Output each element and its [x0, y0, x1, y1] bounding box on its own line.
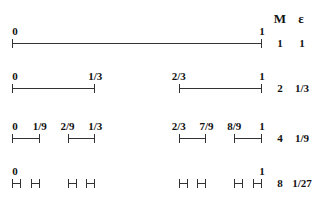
interval-segment — [68, 183, 77, 184]
interval-segment — [31, 183, 40, 184]
interval-segment — [86, 183, 95, 184]
endpoint-label: 1 — [259, 166, 265, 177]
cantor-set-diagram: M ε 011101/32/3121/301/92/91/32/37/98/91… — [0, 0, 320, 203]
m-value: 1 — [277, 38, 283, 49]
interval-segment — [12, 183, 21, 184]
interval-segment — [234, 183, 243, 184]
interval-segment — [12, 138, 40, 139]
endpoint-label: 2/9 — [61, 121, 75, 132]
endpoint-label: 0 — [12, 166, 18, 177]
interval-segment — [12, 88, 95, 89]
m-value: 8 — [277, 178, 283, 189]
epsilon-column-header: ε — [298, 12, 304, 25]
endpoint-label: 0 — [12, 71, 18, 82]
interval-segment — [253, 183, 262, 184]
endpoint-label: 8/9 — [227, 121, 241, 132]
epsilon-value: 1 — [299, 38, 305, 49]
epsilon-value: 1/3 — [295, 83, 309, 94]
interval-segment — [179, 88, 262, 89]
interval-segment — [179, 138, 207, 139]
endpoint-label: 7/9 — [199, 121, 213, 132]
endpoint-label: 0 — [12, 121, 18, 132]
epsilon-value: 1/27 — [292, 178, 312, 189]
endpoint-label: 1 — [259, 26, 265, 37]
interval-segment — [234, 138, 262, 139]
endpoint-label: 1 — [259, 71, 265, 82]
endpoint-label: 1 — [259, 121, 265, 132]
endpoint-label: 2/3 — [172, 71, 186, 82]
endpoint-label: 1/3 — [88, 121, 102, 132]
m-column-header: M — [274, 12, 286, 25]
interval-segment — [179, 183, 188, 184]
m-value: 2 — [277, 83, 283, 94]
endpoint-label: 0 — [12, 26, 18, 37]
endpoint-label: 1/9 — [33, 121, 47, 132]
interval-segment — [68, 138, 96, 139]
interval-segment — [12, 43, 262, 44]
m-value: 4 — [277, 133, 283, 144]
endpoint-label: 2/3 — [172, 121, 186, 132]
endpoint-label: 1/3 — [88, 71, 102, 82]
interval-segment — [197, 183, 206, 184]
epsilon-value: 1/9 — [295, 133, 309, 144]
